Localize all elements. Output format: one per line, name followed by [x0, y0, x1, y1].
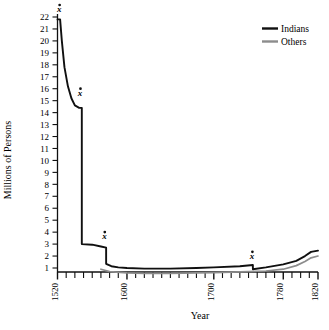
- x-tick-label: 1520: [50, 283, 60, 302]
- chart-figure: 12345678910111213141516171819202122 1520…: [0, 0, 329, 330]
- x-tick-label: 1700: [206, 283, 216, 302]
- y-tick-label: 7: [45, 191, 50, 201]
- y-tick-label: 10: [40, 156, 50, 166]
- y-tick-label: 4: [45, 227, 50, 237]
- y-tick-label: 8: [45, 180, 50, 190]
- x-tick-label: 1600: [119, 283, 129, 302]
- y-tick-label: 21: [40, 24, 49, 34]
- x-marker: x: [77, 87, 83, 98]
- y-tick-label: 1: [45, 263, 50, 273]
- y-tick-label: 16: [40, 84, 50, 94]
- y-tick-label: 20: [40, 36, 50, 46]
- y-tick-label: 14: [40, 108, 50, 118]
- y-tick-label: 12: [40, 132, 49, 142]
- x-marker: x: [101, 231, 107, 242]
- x-axis-tick-labels: 15201600170017801820: [50, 283, 321, 302]
- x-marker-glyph: x: [249, 251, 255, 261]
- y-tick-label: 6: [45, 203, 50, 213]
- y-tick-label: 15: [40, 96, 50, 106]
- x-tick-label: 1780: [275, 283, 285, 302]
- x-marker-glyph: x: [56, 4, 62, 14]
- x-axis-title: Year: [191, 310, 210, 321]
- x-marker-glyph: x: [77, 88, 83, 98]
- y-tick-label: 13: [40, 120, 50, 130]
- population-decline-line-chart: 12345678910111213141516171819202122 1520…: [0, 0, 329, 330]
- x-marker-glyph: x: [101, 231, 107, 241]
- x-marker: x: [249, 250, 255, 261]
- y-tick-label: 5: [45, 215, 50, 225]
- y-axis-title: Millions of Persons: [2, 121, 13, 199]
- y-tick-label: 9: [45, 168, 50, 178]
- y-tick-label: 2: [45, 251, 50, 261]
- y-tick-label: 3: [45, 239, 50, 249]
- chart-legend: Indians Others: [262, 24, 309, 47]
- x-tick-label: 1820: [310, 283, 320, 302]
- y-tick-label: 19: [40, 48, 50, 58]
- y-tick-label: 22: [40, 12, 49, 22]
- x-marker: x: [56, 4, 62, 15]
- legend-label-indians: Indians: [281, 24, 309, 34]
- y-tick-label: 11: [40, 144, 49, 154]
- y-axis-tick-labels: 12345678910111213141516171819202122: [40, 12, 50, 273]
- y-axis-ticks: [53, 17, 58, 268]
- data-point-markers: xxxx: [56, 4, 255, 261]
- series-line-indians: [58, 19, 319, 269]
- legend-label-others: Others: [281, 37, 307, 47]
- y-tick-label: 17: [40, 72, 50, 82]
- y-tick-label: 18: [40, 60, 50, 70]
